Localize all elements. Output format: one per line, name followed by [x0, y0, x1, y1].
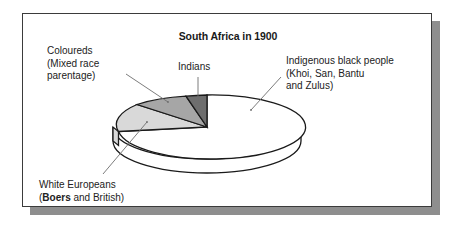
label-indigenous-black-people: Indigenous black people (Khoi, San, Bant… [286, 55, 394, 93]
figure-frame: South Africa in 1900 [22, 13, 432, 207]
label-indians-line1: Indians [178, 61, 210, 74]
leader-dot-white-europeans [146, 121, 148, 123]
label-indigenous-line3: and Zulus) [286, 80, 394, 93]
label-indigenous-line1: Indigenous black people [286, 55, 394, 68]
label-indians: Indians [178, 61, 210, 74]
leader-dot-coloureds [167, 101, 169, 103]
label-coloureds-line2: (Mixed race [47, 58, 99, 71]
label-coloureds: Coloureds (Mixed race parentage) [47, 45, 99, 83]
label-white-europeans-and-british: and British) [71, 192, 124, 203]
leader-line-coloureds [126, 74, 168, 102]
label-white-europeans: White Europeans (Boers and British) [39, 179, 124, 204]
label-white-europeans-boers: Boers [42, 192, 70, 203]
label-coloureds-line1: Coloureds [47, 45, 99, 58]
label-coloureds-line3: parentage) [47, 70, 99, 83]
label-indigenous-line2: (Khoi, San, Bantu [286, 68, 394, 81]
label-white-europeans-line2: (Boers and British) [39, 192, 124, 205]
label-white-europeans-line1: White Europeans [39, 179, 124, 192]
leader-dot-indigenous [250, 109, 252, 111]
figure-root: South Africa in 1900 [0, 0, 460, 228]
